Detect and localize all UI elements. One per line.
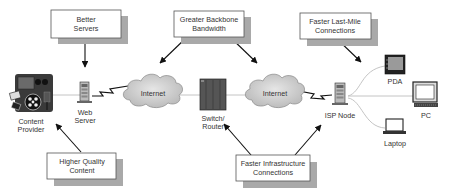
callout-text-line2: Content: [69, 166, 94, 175]
callout-text-line2: Connections: [315, 26, 355, 35]
callout-text-line1: Higher Quality: [59, 157, 105, 166]
node-internet-left: Internet: [123, 74, 182, 107]
callout-greater-backbone-bandwidth: Greater Backbone Bandwidth: [174, 11, 251, 44]
node-label: PDA: [388, 77, 403, 86]
server-tower-icon: [77, 82, 92, 103]
node-pc: PC: [413, 82, 438, 120]
diagram-canvas: Better Servers Greater Backbone Bandwidt…: [0, 0, 453, 190]
link-isp-pda: [348, 66, 385, 96]
server-tower-icon: [332, 83, 348, 105]
node-internet-right: Internet: [245, 74, 304, 107]
node-label: PC: [421, 111, 431, 120]
connections: [50, 66, 432, 128]
node-switch-router: Switch/ Router: [200, 79, 226, 131]
desktop-computer-icon: [413, 82, 438, 107]
rack-switch-icon: [200, 79, 226, 110]
node-content-provider: Content Provider: [9, 74, 53, 134]
media-collage-icon: [9, 74, 53, 112]
node-label: Router: [202, 122, 224, 131]
node-laptop: Laptop: [383, 119, 406, 148]
arrow-infra-isp: [295, 125, 321, 155]
node-web-server: Web Server: [74, 82, 96, 125]
callout-text-line1: Better: [76, 15, 96, 24]
callout-text-line2: Servers: [74, 24, 99, 33]
node-label: Internet: [141, 89, 165, 98]
node-pda: PDA: [385, 55, 405, 86]
callout-better-servers: Better Servers: [51, 10, 128, 44]
node-label: Provider: [18, 125, 45, 134]
callout-text-line2: Connections: [253, 168, 293, 177]
callout-higher-quality-content: Higher Quality Content: [47, 153, 123, 186]
node-label: Laptop: [384, 139, 406, 148]
arrow-quality-content: [56, 124, 81, 152]
callout-text-line1: Faster Infrastructure: [241, 159, 306, 168]
pda-icon: [385, 55, 405, 74]
arrow-infra-switch: [224, 124, 251, 155]
node-label: Internet: [263, 89, 287, 98]
node-isp: ISP Node: [325, 83, 356, 120]
node-label: Server: [74, 116, 96, 125]
callout-text-line1: Faster Last-Mile: [309, 17, 361, 26]
laptop-icon: [383, 119, 406, 134]
callout-text-line1: Greater Backbone: [180, 15, 238, 24]
callout-faster-infrastructure: Faster Infrastructure Connections: [236, 155, 317, 188]
callout-text-line2: Bandwidth: [192, 24, 226, 33]
node-label: ISP Node: [325, 111, 356, 120]
callout-faster-last-mile: Faster Last-Mile Connections: [300, 13, 378, 46]
lightning-webserver-internet: [92, 86, 128, 96]
